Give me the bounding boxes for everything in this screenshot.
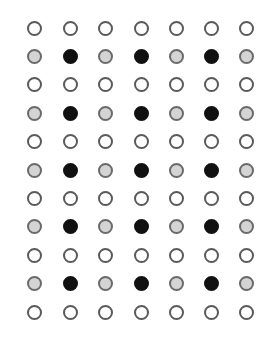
- white-circle: [134, 77, 149, 92]
- black-circle: [63, 276, 78, 291]
- gray-circle: [169, 163, 184, 178]
- black-circle: [134, 219, 149, 234]
- white-circle: [134, 248, 149, 263]
- black-circle: [63, 163, 78, 178]
- white-circle: [169, 305, 184, 320]
- black-circle: [204, 49, 219, 64]
- gray-circle: [98, 219, 113, 234]
- white-circle: [239, 191, 254, 206]
- white-circle: [204, 21, 219, 36]
- black-circle: [204, 163, 219, 178]
- white-circle: [63, 305, 78, 320]
- white-circle: [204, 305, 219, 320]
- white-circle: [27, 248, 42, 263]
- white-circle: [98, 305, 113, 320]
- white-circle: [134, 191, 149, 206]
- white-circle: [239, 21, 254, 36]
- white-circle: [63, 191, 78, 206]
- white-circle: [27, 77, 42, 92]
- black-circle: [204, 276, 219, 291]
- gray-circle: [239, 106, 254, 121]
- black-circle: [204, 106, 219, 121]
- white-circle: [204, 134, 219, 149]
- white-circle: [27, 21, 42, 36]
- white-circle: [98, 134, 113, 149]
- black-circle: [134, 49, 149, 64]
- white-circle: [169, 191, 184, 206]
- black-circle: [63, 106, 78, 121]
- white-circle: [27, 305, 42, 320]
- black-circle: [134, 163, 149, 178]
- white-circle: [239, 305, 254, 320]
- black-circle: [134, 276, 149, 291]
- black-circle: [134, 106, 149, 121]
- white-circle: [63, 134, 78, 149]
- white-circle: [98, 77, 113, 92]
- white-circle: [169, 248, 184, 263]
- black-circle: [63, 219, 78, 234]
- gray-circle: [27, 163, 42, 178]
- white-circle: [98, 191, 113, 206]
- white-circle: [239, 248, 254, 263]
- gray-circle: [169, 219, 184, 234]
- gray-circle: [98, 49, 113, 64]
- gray-circle: [169, 49, 184, 64]
- white-circle: [169, 77, 184, 92]
- white-circle: [63, 248, 78, 263]
- gray-circle: [239, 163, 254, 178]
- white-circle: [63, 77, 78, 92]
- gray-circle: [98, 276, 113, 291]
- gray-circle: [27, 276, 42, 291]
- gray-circle: [239, 276, 254, 291]
- black-circle: [63, 49, 78, 64]
- white-circle: [27, 134, 42, 149]
- white-circle: [169, 21, 184, 36]
- gray-circle: [98, 106, 113, 121]
- white-circle: [134, 134, 149, 149]
- gray-circle: [169, 276, 184, 291]
- gray-circle: [169, 106, 184, 121]
- white-circle: [134, 21, 149, 36]
- gray-circle: [98, 163, 113, 178]
- white-circle: [134, 305, 149, 320]
- white-circle: [204, 248, 219, 263]
- white-circle: [204, 191, 219, 206]
- white-circle: [204, 77, 219, 92]
- white-circle: [169, 134, 184, 149]
- gray-circle: [27, 106, 42, 121]
- gray-circle: [239, 219, 254, 234]
- gray-circle: [27, 219, 42, 234]
- white-circle: [27, 191, 42, 206]
- gray-circle: [27, 49, 42, 64]
- white-circle: [239, 134, 254, 149]
- white-circle: [63, 21, 78, 36]
- gray-circle: [239, 49, 254, 64]
- white-circle: [98, 21, 113, 36]
- dot-grid: [0, 0, 270, 341]
- white-circle: [239, 77, 254, 92]
- white-circle: [98, 248, 113, 263]
- black-circle: [204, 219, 219, 234]
